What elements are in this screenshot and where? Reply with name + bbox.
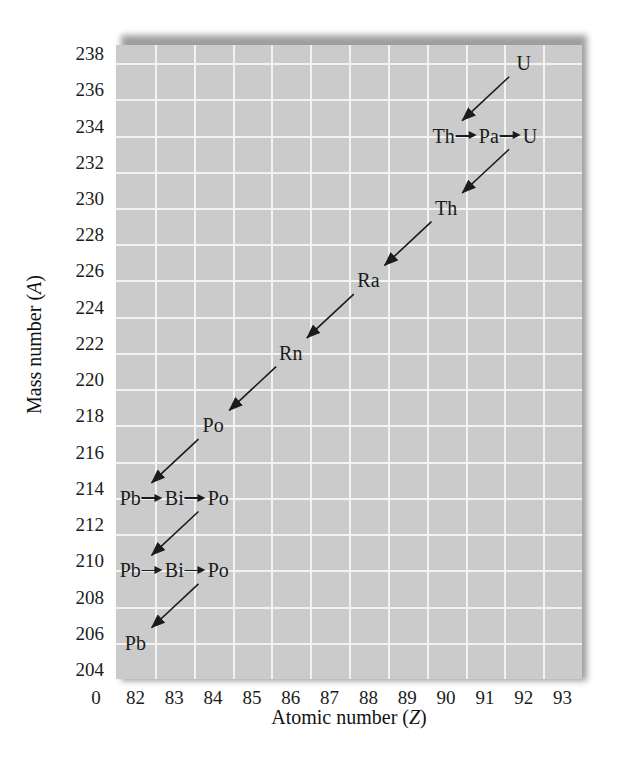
horizontal-gridline	[116, 317, 582, 319]
nuclide-row: Rn	[279, 343, 302, 363]
x-axis-tick-label: 88	[346, 687, 390, 709]
x-axis-title-close: )	[420, 706, 427, 728]
nuclide-symbol: U	[523, 126, 537, 146]
y-axis-title-text: Mass number (	[23, 294, 45, 414]
nuclide-row: PbBiPo	[120, 488, 229, 508]
y-axis-tick-label: 224	[48, 297, 104, 319]
nuclide-symbol: Th	[435, 198, 457, 218]
y-axis-tick-label: 238	[48, 43, 104, 65]
y-axis-tick-label: 226	[48, 260, 104, 282]
vertical-gridline	[310, 45, 312, 679]
nuclide-symbol: Bi	[165, 488, 184, 508]
beta-decay-arrow-icon	[142, 565, 164, 576]
y-axis-tick-label: 208	[48, 587, 104, 609]
y-axis-title-close: )	[23, 275, 45, 282]
y-axis-title-variable: A	[23, 282, 45, 294]
y-axis-tick-label: 236	[48, 79, 104, 101]
y-axis-tick-label: 232	[48, 152, 104, 174]
horizontal-gridline	[116, 425, 582, 427]
x-axis-tick-label: 92	[502, 687, 546, 709]
beta-decay-arrow-icon	[500, 130, 522, 141]
x-axis-title-text: Atomic number (	[271, 706, 409, 728]
nuclide-symbol: Rn	[279, 343, 302, 363]
nuclide-row: Th	[435, 198, 457, 218]
horizontal-gridline	[116, 607, 582, 609]
y-axis-tick-label: 216	[48, 442, 104, 464]
nuclide-symbol: Po	[208, 560, 229, 580]
nuclide-symbol: Pb	[125, 633, 146, 653]
vertical-gridline	[155, 45, 157, 679]
y-axis-tick-label: 210	[48, 550, 104, 572]
nuclide-symbol: Po	[208, 488, 229, 508]
y-axis-tick-label: 212	[48, 514, 104, 536]
y-axis-tick-label: 228	[48, 224, 104, 246]
y-axis-tick-label: 204	[48, 659, 104, 681]
vertical-gridline	[349, 45, 351, 679]
horizontal-gridline	[116, 353, 582, 355]
horizontal-gridline	[116, 99, 582, 101]
horizontal-gridline	[116, 462, 582, 464]
x-axis-title: Atomic number (Z)	[116, 706, 582, 729]
nuclide-symbol: Bi	[165, 560, 184, 580]
nuclide-symbol: Ra	[357, 270, 379, 290]
x-axis-tick-label: 91	[463, 687, 507, 709]
beta-decay-arrow-icon	[185, 565, 207, 576]
vertical-gridline	[194, 45, 196, 679]
nuclide-symbol: Pa	[479, 126, 499, 146]
x-axis-tick-label: 93	[541, 687, 585, 709]
nuclide-symbol: Pb	[120, 560, 141, 580]
x-axis-tick-label: 87	[308, 687, 352, 709]
vertical-gridline	[233, 45, 235, 679]
nuclide-symbol: Pb	[120, 488, 141, 508]
decay-series-figure: Mass number (A) Atomic number (Z) 238236…	[0, 0, 620, 761]
vertical-gridline	[388, 45, 390, 679]
horizontal-gridline	[116, 63, 582, 65]
nuclide-row: PbBiPo	[120, 560, 229, 580]
x-axis-tick-label: 90	[424, 687, 468, 709]
y-axis-title: Mass number (A)	[23, 235, 46, 455]
beta-decay-arrow-icon	[142, 492, 164, 503]
vertical-gridline	[271, 45, 273, 679]
x-axis-tick-label: 84	[191, 687, 235, 709]
y-axis-tick-label: 206	[48, 623, 104, 645]
y-axis-tick-label: 234	[48, 116, 104, 138]
nuclide-symbol: Th	[433, 126, 455, 146]
beta-decay-arrow-icon	[456, 130, 478, 141]
nuclide-row: U	[517, 53, 531, 73]
y-axis-tick-label: 222	[48, 333, 104, 355]
nuclide-row: Po	[203, 415, 224, 435]
y-axis-tick-label: 214	[48, 478, 104, 500]
horizontal-gridline	[116, 389, 582, 391]
y-axis-tick-label: 230	[48, 188, 104, 210]
x-axis-tick-label: 82	[113, 687, 157, 709]
horizontal-gridline	[116, 172, 582, 174]
horizontal-gridline	[116, 280, 582, 282]
nuclide-row: Pb	[125, 633, 146, 653]
nuclide-symbol: Po	[203, 415, 224, 435]
nuclide-row: ThPaU	[433, 126, 538, 146]
y-axis-tick-label: 218	[48, 405, 104, 427]
horizontal-gridline	[116, 244, 582, 246]
x-axis-tick-label: 85	[230, 687, 274, 709]
y-axis-tick-label: 220	[48, 369, 104, 391]
x-axis-tick-label: 89	[385, 687, 429, 709]
horizontal-gridline	[116, 534, 582, 536]
horizontal-gridline	[116, 643, 582, 645]
x-axis-tick-label: 86	[269, 687, 313, 709]
nuclide-row: Ra	[357, 270, 379, 290]
horizontal-gridline	[116, 208, 582, 210]
x-axis-break-label: 0	[82, 687, 110, 709]
x-axis-title-variable: Z	[409, 706, 420, 728]
beta-decay-arrow-icon	[185, 492, 207, 503]
nuclide-symbol: U	[517, 53, 531, 73]
vertical-gridline	[543, 45, 545, 679]
x-axis-tick-label: 83	[152, 687, 196, 709]
vertical-gridline	[427, 45, 429, 679]
